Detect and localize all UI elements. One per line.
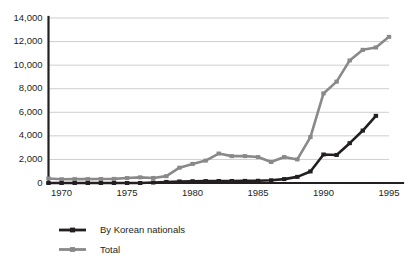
x-axis-tick-label: 1990: [313, 187, 334, 198]
data-point-marker: [348, 58, 352, 62]
y-axis-tick-label: 0: [37, 177, 42, 188]
legend-label-total: Total: [100, 244, 120, 255]
data-point-marker: [374, 45, 378, 49]
data-point-marker: [151, 176, 155, 180]
data-point-marker: [361, 48, 365, 52]
data-point-marker: [256, 179, 260, 183]
y-axis-tick-label: 14,000: [13, 12, 42, 23]
data-point-marker: [243, 179, 247, 183]
legend-label-korean-nationals: By Korean nationals: [100, 224, 185, 235]
data-point-marker: [387, 35, 391, 39]
data-point-marker: [59, 181, 63, 185]
data-point-marker: [282, 177, 286, 181]
y-axis-tick-labels: 02,0004,0006,0008,00010,00012,00014,000: [13, 12, 42, 188]
y-axis-tick-label: 8,000: [19, 82, 43, 93]
series-line-total: [49, 37, 390, 179]
data-point-marker: [46, 177, 50, 181]
legend-item-korean-nationals: By Korean nationals: [59, 224, 185, 235]
data-point-marker: [334, 80, 338, 84]
data-point-marker: [217, 179, 221, 183]
data-point-marker: [72, 177, 76, 181]
data-point-marker: [269, 178, 273, 182]
data-point-marker: [321, 91, 325, 95]
data-point-marker: [374, 114, 378, 118]
legend-swatch-marker-korean-nationals: [70, 228, 75, 233]
data-series: [46, 35, 391, 185]
data-point-marker: [125, 181, 129, 185]
x-axis-tick-label: 1995: [378, 187, 399, 198]
data-point-marker: [46, 181, 50, 185]
data-point-marker: [269, 160, 273, 164]
data-point-marker: [112, 181, 116, 185]
data-point-marker: [86, 177, 90, 181]
y-axis-tick-label: 6,000: [19, 106, 43, 117]
data-point-marker: [138, 175, 142, 179]
data-point-marker: [138, 181, 142, 185]
data-point-marker: [321, 152, 325, 156]
data-point-marker: [59, 177, 63, 181]
data-point-marker: [282, 155, 286, 159]
x-axis-tick-label: 1975: [117, 187, 138, 198]
data-point-marker: [177, 166, 181, 170]
y-axis-tick-label: 4,000: [19, 129, 43, 140]
data-point-marker: [99, 177, 103, 181]
y-axis-tick-label: 12,000: [13, 35, 42, 46]
data-point-marker: [151, 181, 155, 185]
chart-container: 02,0004,0006,0008,00010,00012,00014,000 …: [0, 0, 420, 270]
data-point-marker: [203, 159, 207, 163]
gridlines: [49, 18, 390, 159]
data-point-marker: [86, 181, 90, 185]
x-axis-tick-label: 1985: [247, 187, 268, 198]
data-point-marker: [308, 169, 312, 173]
data-point-marker: [243, 154, 247, 158]
data-point-marker: [164, 174, 168, 178]
line-chart: 02,0004,0006,0008,00010,00012,00014,000 …: [0, 0, 420, 270]
data-point-marker: [334, 153, 338, 157]
y-axis-tick-label: 10,000: [13, 59, 42, 70]
data-point-marker: [256, 155, 260, 159]
legend-item-total: Total: [59, 244, 120, 255]
y-axis-tick-label: 2,000: [19, 153, 43, 164]
data-point-marker: [190, 162, 194, 166]
data-point-marker: [295, 175, 299, 179]
data-point-marker: [125, 176, 129, 180]
data-point-marker: [230, 154, 234, 158]
data-point-marker: [112, 177, 116, 181]
data-point-marker: [361, 129, 365, 133]
chart-legend: By Korean nationalsTotal: [59, 224, 185, 255]
series-korean-nationals: [46, 114, 378, 185]
x-axis-tick-label: 1970: [51, 187, 72, 198]
data-point-marker: [164, 180, 168, 184]
series-line-korean-nationals: [49, 116, 376, 183]
data-point-marker: [177, 179, 181, 183]
data-point-marker: [348, 141, 352, 145]
data-point-marker: [308, 135, 312, 139]
data-point-marker: [230, 179, 234, 183]
data-point-marker: [203, 179, 207, 183]
x-axis-tick-labels: 197019751980198519901995: [51, 187, 400, 198]
data-point-marker: [217, 152, 221, 156]
data-point-marker: [99, 181, 103, 185]
data-point-marker: [295, 157, 299, 161]
x-axis-tick-label: 1980: [182, 187, 203, 198]
data-point-marker: [72, 181, 76, 185]
legend-swatch-marker-total: [70, 247, 75, 252]
data-point-marker: [190, 179, 194, 183]
